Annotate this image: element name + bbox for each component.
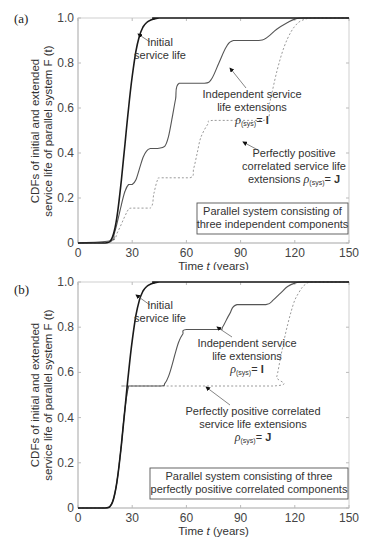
box-text-line: Parallel system consisting of three bbox=[166, 470, 333, 482]
svg-text:service life of parallel syste: service life of parallel system F (t) bbox=[42, 309, 54, 480]
y-tick-label: 0.6 bbox=[57, 365, 74, 379]
annotation-arrow-icon bbox=[230, 68, 246, 88]
xlabel: Time t (years) bbox=[178, 525, 249, 537]
box-text-line: three independent components bbox=[197, 218, 349, 230]
x-tick-label: 120 bbox=[285, 246, 305, 260]
x-tick-label: 90 bbox=[234, 511, 248, 525]
x-tick-label: 90 bbox=[234, 246, 248, 260]
y-tick-label: 0.4 bbox=[57, 411, 74, 425]
x-tick-label: 60 bbox=[180, 511, 194, 525]
x-tick-label: 30 bbox=[126, 511, 140, 525]
x-tick-label: 0 bbox=[75, 246, 82, 260]
y-tick-label: 1.0 bbox=[57, 11, 74, 25]
x-tick-label: 150 bbox=[339, 246, 359, 260]
annotation-initial: Initial bbox=[147, 299, 173, 311]
system-description-box: Parallel system consisting of threeperfe… bbox=[150, 468, 348, 499]
chart-a-svg: CDFs of initial and extended service lif… bbox=[0, 0, 369, 270]
annotation-correlated: correlated service life bbox=[242, 160, 346, 172]
svg-text:CDFs of initial and extended: CDFs of initial and extended bbox=[29, 323, 41, 467]
y-tick-label: 0.4 bbox=[57, 146, 74, 160]
x-tick-label: 0 bbox=[75, 511, 82, 525]
annotation-correlated: Perfectly positive correlated bbox=[185, 405, 320, 417]
annotation-independent: ρ(sys)= I bbox=[229, 362, 263, 377]
y-tick-label: 0 bbox=[67, 236, 74, 250]
y-tick-label: 0.8 bbox=[57, 320, 74, 334]
box-text-line: perfectly positive correlated components bbox=[151, 483, 348, 495]
x-tick-label: 60 bbox=[180, 246, 194, 260]
svg-text:service life of parallel syste: service life of parallel system F (t) bbox=[42, 45, 54, 216]
annotation-independent: life extensions bbox=[217, 101, 287, 113]
annotation-arrow-icon bbox=[217, 327, 232, 337]
chart-b-svg: CDFs of initial and extended service lif… bbox=[0, 265, 369, 540]
annotation-correlated: extensions ρ(sys)= J bbox=[248, 172, 340, 187]
x-tick-label: 120 bbox=[285, 511, 305, 525]
box-text-line: Parallel system consisting of bbox=[203, 205, 343, 217]
ylabel: CDFs of initial and extended service lif… bbox=[29, 45, 54, 216]
annotation-correlated: ρ(sys)= J bbox=[234, 430, 272, 445]
annotation-independent: Independent service bbox=[202, 88, 301, 100]
y-tick-label: 0.2 bbox=[57, 191, 74, 205]
annotation-correlated: Perfectly positive bbox=[252, 147, 335, 159]
x-tick-label: 150 bbox=[339, 511, 359, 525]
annotation-independent: ρ(sys)= I bbox=[234, 113, 268, 128]
annotation-initial: service life bbox=[134, 49, 186, 61]
svg-text:CDFs of initial and extended: CDFs of initial and extended bbox=[29, 59, 41, 203]
ylabel: CDFs of initial and extended service lif… bbox=[29, 309, 54, 480]
annotations: Initialservice lifeIndependent serviceli… bbox=[134, 34, 346, 187]
system-description-box: Parallel system consisting ofthree indep… bbox=[197, 203, 349, 234]
chart-panel-b: (b) CDFs of initial and extended service… bbox=[0, 265, 369, 535]
y-tick-label: 0.2 bbox=[57, 456, 74, 470]
y-tick-label: 0.6 bbox=[57, 101, 74, 115]
annotation-initial: Initial bbox=[147, 36, 173, 48]
y-tick-label: 1.0 bbox=[57, 275, 74, 289]
annotation-initial: service life bbox=[134, 312, 186, 324]
y-tick-label: 0 bbox=[67, 501, 74, 515]
annotation-correlated: service life extensions bbox=[199, 418, 307, 430]
chart-panel-a: (a) CDFs of initial and extended service… bbox=[0, 0, 369, 270]
y-tick-label: 0.8 bbox=[57, 56, 74, 70]
annotation-independent: life extensions bbox=[212, 350, 282, 362]
annotation-independent: Independent service bbox=[197, 337, 296, 349]
x-tick-label: 30 bbox=[126, 246, 140, 260]
annotation-arrow-icon bbox=[206, 387, 230, 405]
